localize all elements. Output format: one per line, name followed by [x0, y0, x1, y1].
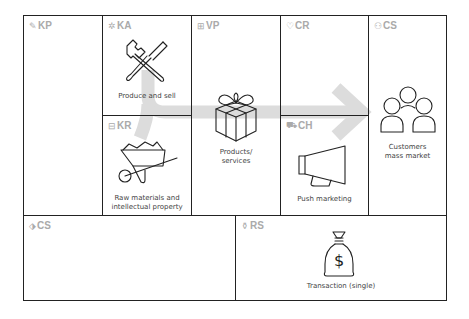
block-key-partners[interactable]: ✎KP [23, 15, 103, 216]
block-key-resources[interactable]: ⊟KR Raw materials and intellectual prope… [102, 115, 192, 216]
factory-icon: ⊟ [108, 121, 116, 131]
cost-label: CS [37, 220, 51, 231]
gift-box-icon [212, 89, 260, 143]
vp-caption-1: Products/ [192, 148, 280, 157]
ch-header: ⛟CH [286, 120, 312, 131]
kr-label: KR [117, 120, 131, 131]
block-customer-segments[interactable]: ⚇CS Customers mass market [368, 15, 447, 216]
tools-icon: ✲ [108, 21, 116, 31]
block-revenue-streams[interactable]: ⚱RS $ Transaction (single) [235, 215, 447, 301]
dollar-sign: $ [334, 251, 344, 270]
block-customer-relationships[interactable]: ♡CR [280, 15, 369, 116]
vp-caption-2: services [192, 157, 280, 166]
block-key-activities[interactable]: ✲KA Produce and sell [102, 15, 192, 116]
kr-caption-2: intellectual property [103, 203, 191, 212]
link-icon: ✎ [29, 21, 37, 31]
truck-icon: ⛟ [286, 120, 297, 131]
wrench-screwdriver-icon [123, 38, 171, 86]
block-channels[interactable]: ⛟CH Push marketing [280, 115, 369, 216]
ka-label: KA [117, 20, 131, 31]
cs-label: CS [383, 20, 397, 31]
tag-icon: ⬗ [29, 221, 36, 231]
ka-header: ✲KA [108, 20, 131, 31]
block-cost-structure[interactable]: ⬗CS [23, 215, 236, 301]
wheelbarrow-icon [113, 138, 179, 184]
vp-label: VP [206, 20, 219, 31]
kr-header: ⊟KR [108, 120, 131, 131]
cs-caption-2: mass market [369, 152, 446, 161]
kr-caption-1: Raw materials and [103, 194, 191, 203]
money-bag-dollar-icon: $ [321, 230, 357, 278]
cr-label: CR [295, 20, 309, 31]
rs-label: RS [250, 220, 264, 231]
rs-header: ⚱RS [241, 220, 264, 231]
business-model-canvas: ✎KP ✲KA Produce and sell ⊟KR Raw materia… [0, 0, 469, 319]
block-value-proposition[interactable]: ⊞VP Products/ services [191, 15, 281, 216]
cost-header: ⬗CS [29, 220, 51, 231]
people-icon: ⚇ [374, 21, 382, 31]
kp-label: KP [38, 20, 52, 31]
ka-caption: Produce and sell [103, 92, 191, 101]
ch-caption: Push marketing [281, 195, 368, 204]
ch-label: CH [298, 120, 312, 131]
customers-group-icon [379, 86, 437, 134]
megaphone-icon [295, 144, 351, 188]
cr-header: ♡CR [286, 20, 309, 31]
vp-header: ⊞VP [197, 20, 219, 31]
heart-icon: ♡ [286, 21, 294, 31]
cs-header: ⚇CS [374, 20, 397, 31]
gift-icon: ⊞ [197, 21, 205, 31]
kp-header: ✎KP [29, 20, 52, 31]
money-bag-icon: ⚱ [241, 221, 249, 231]
rs-caption: Transaction (single) [236, 282, 446, 291]
cs-caption-1: Customers [369, 143, 446, 152]
